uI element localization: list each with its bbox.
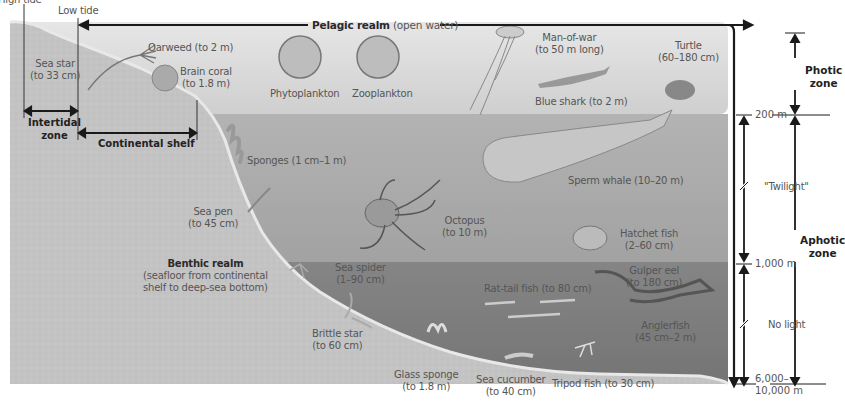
photic-zone-label: Photic zone (805, 64, 842, 90)
benthic-realm-label: Benthic realm (seafloor from continental… (143, 258, 268, 294)
label-sea-cucumber: Sea cucumber(to 40 cm) (476, 374, 545, 398)
label-sperm-whale: Sperm whale (10–20 m) (568, 175, 683, 187)
label-brittle-star: Brittle star(to 60 cm) (312, 328, 363, 352)
label-rat-tail-fish: Rat-tail fish (to 80 cm) (484, 283, 592, 295)
depth-bottom: 6,000– 10,000 m (755, 373, 803, 397)
depth-scale (736, 115, 756, 385)
pelagic-realm-name: Pelagic realm (312, 19, 390, 31)
label-sponges: Sponges (1 cm–1 m) (247, 155, 346, 167)
label-oarweed: Oarweed (to 2 m) (148, 42, 233, 54)
phytoplankton-icon (279, 36, 321, 78)
label-octopus: Octopus(to 10 m) (442, 215, 487, 239)
hatchet-fish-icon (573, 226, 607, 250)
zooplankton-icon (357, 36, 399, 78)
benthic-realm-name: Benthic realm (143, 258, 268, 270)
label-sea-spider: Sea spider(1–90 cm) (335, 262, 386, 286)
label-gulper-eel: Gulper eel(to 180 cm) (626, 265, 682, 289)
turtle-icon (665, 80, 695, 100)
label-man-of-war: Man-of-war(to 50 m long) (535, 32, 604, 56)
depth-1000m: 1,000 m (755, 258, 797, 269)
label-hatchet-fish: Hatchet fish(2–60 cm) (620, 228, 678, 252)
label-tripod-fish: Tripod fish (to 30 cm) (552, 378, 654, 390)
label-anglerfish: Anglerfish(45 cm–2 m) (635, 320, 696, 344)
brain-coral-icon (152, 65, 178, 91)
label-blue-shark: Blue shark (to 2 m) (535, 96, 628, 108)
label-zooplankton: Zooplankton (352, 88, 413, 100)
label-brain-coral: Brain coral(to 1.8 m) (180, 66, 232, 90)
high-tide-label: High tide (0, 0, 42, 6)
aphotic-zone-label: Aphotic zone (800, 234, 845, 260)
pelagic-realm-desc: (open water) (393, 19, 458, 31)
label-turtle: Turtle(60–180 cm) (658, 40, 719, 64)
intertidal-zone-label: Intertidal zone (28, 116, 81, 142)
label-sea-star: Sea star(to 33 cm) (30, 58, 80, 82)
label-glass-sponge: Glass sponge(to 1.8 m) (394, 369, 458, 393)
twilight-label: "Twilight" (764, 181, 809, 193)
low-tide-label: Low tide (58, 5, 98, 17)
depth-200m: 200 m (755, 109, 787, 120)
no-light-label: No light (768, 319, 805, 331)
label-phytoplankton: Phytoplankton (270, 88, 340, 100)
label-sea-pen: Sea pen(to 45 cm) (188, 206, 238, 230)
pelagic-realm-label: Pelagic realm (open water) (312, 19, 458, 31)
continental-shelf-label: Continental shelf (98, 137, 195, 150)
